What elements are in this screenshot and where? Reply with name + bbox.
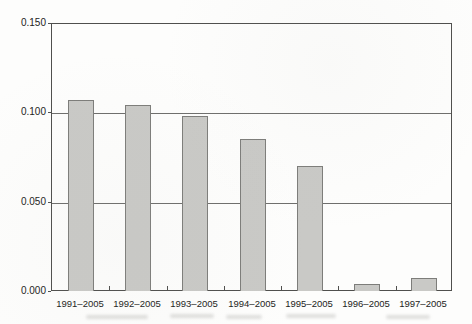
y-axis-tick-label: 0.050 <box>0 196 46 208</box>
y-axis-tick <box>48 202 51 203</box>
x-axis-category-label: 1992–2005 <box>108 298 166 310</box>
scan-artifact <box>386 315 430 319</box>
scan-artifact <box>170 314 214 318</box>
y-axis-tick <box>48 291 51 292</box>
bar-1993–2005 <box>182 116 208 291</box>
bar-1992–2005 <box>125 105 151 291</box>
y-axis-tick-label: 0.100 <box>0 106 46 118</box>
x-axis-category-label: 1993–2005 <box>165 298 223 310</box>
bar-1996–2005 <box>354 284 380 291</box>
x-axis-tick <box>109 286 110 291</box>
bar-1994–2005 <box>240 139 266 291</box>
x-axis-category-label: 1991–2005 <box>51 298 109 310</box>
bar-1991–2005 <box>68 100 94 291</box>
y-axis-tick <box>48 112 51 113</box>
x-axis-tick <box>338 286 339 291</box>
x-axis-tick <box>396 286 397 291</box>
plot-area <box>51 23 452 291</box>
x-axis-tick <box>224 286 225 291</box>
x-axis-category-label: 1995–2005 <box>280 298 338 310</box>
bar-chart-figure: 0.1500.1000.0500.000 1991–20051992–20051… <box>0 0 472 324</box>
x-axis-tick <box>281 286 282 291</box>
scan-artifact <box>286 314 336 318</box>
scan-artifact <box>86 315 148 319</box>
scan-artifact <box>226 315 262 319</box>
x-axis-category-label: 1994–2005 <box>223 298 281 310</box>
bar-1995–2005 <box>297 166 323 291</box>
bar-1997–2005 <box>411 278 437 291</box>
y-axis-tick <box>48 23 51 24</box>
x-axis-tick <box>167 286 168 291</box>
gridline <box>52 113 451 114</box>
x-axis-category-label: 1997–2005 <box>394 298 452 310</box>
y-axis-tick-label: 0.150 <box>0 17 46 29</box>
x-axis-category-label: 1996–2005 <box>337 298 395 310</box>
y-axis-tick-label: 0.000 <box>0 285 46 297</box>
